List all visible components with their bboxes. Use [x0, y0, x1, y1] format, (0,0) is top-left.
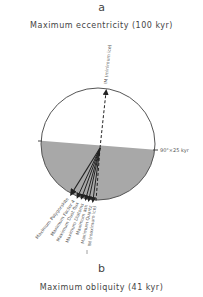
top-arrow-label: IM (minimum ice) [103, 44, 112, 84]
panel-b-letter: b [0, 262, 203, 275]
right-marker-label: 90°×25 kyr [160, 147, 190, 154]
phase-wheel-diagram: IM (minimum ice) 90°×25 kyr Maximum Paly… [0, 0, 203, 297]
top-arrow [100, 92, 106, 148]
panel-b-title: Maximum obliquity (41 kyr) [0, 283, 203, 292]
